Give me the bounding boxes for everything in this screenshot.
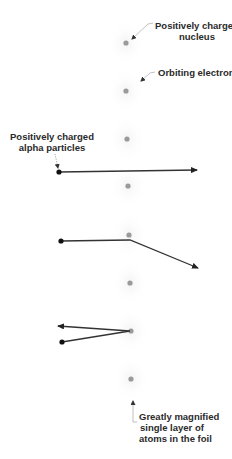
nucleus-dot [125,183,130,188]
alpha-label-line1: Positively charged [10,131,94,142]
foil-label-line1: Greatly magnified [139,411,219,422]
nucleus-label: Positively charged nucleus [155,20,232,42]
nucleus-dot [124,136,129,141]
electrons-label: Orbiting electrons [158,67,232,78]
foil-label-line3: atoms in the foil [139,433,219,444]
foil-label: Greatly magnified single layer of atoms … [139,411,219,444]
alpha-leader-arrow [55,154,58,168]
alpha-particle-dot [58,238,63,243]
foil-leader-arrow [133,401,137,422]
nucleus-dot [123,40,128,45]
electrons-leader-arrow [141,72,155,81]
nucleus-dot [126,232,131,237]
nucleus-dot [127,280,132,285]
electrons-label-line1: Orbiting electrons [158,67,232,78]
alpha-label-line2: alpha particles [10,142,94,153]
nucleus-label-line2: nucleus [155,31,232,42]
nucleus-dot [123,88,128,93]
electron-clouds [108,21,149,401]
foil-label-line2: single layer of [139,422,219,433]
nucleus-label-line1: Positively charged [155,20,232,31]
nucleus-dot [128,376,133,381]
alpha-particle-dot [59,339,64,344]
rutherford-scattering-diagram: Positively charged nucleus Orbiting elec… [0,0,232,459]
alpha-particles-label: Positively charged alpha particles [10,131,94,153]
alpha-particle-dot [56,169,61,174]
